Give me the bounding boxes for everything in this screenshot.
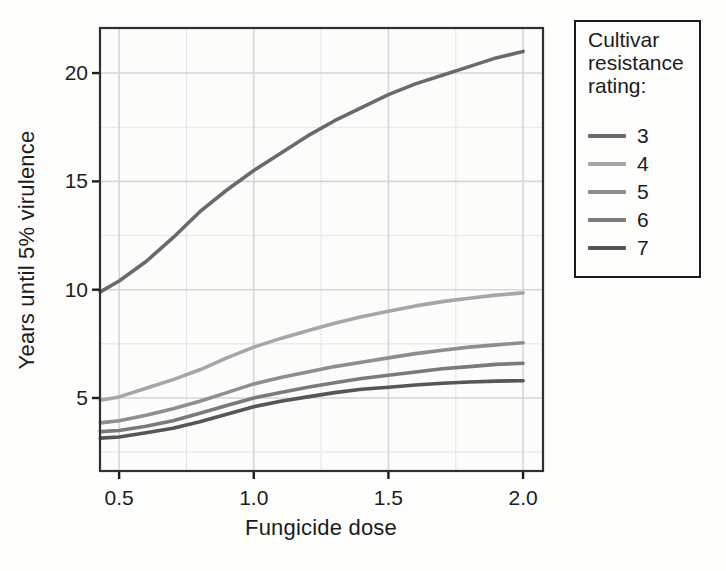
- legend-box: Cultivarresistancerating: 34567: [574, 20, 701, 278]
- legend-line-swatch-7: [588, 246, 626, 250]
- legend-line-swatch-4: [588, 162, 626, 166]
- legend-line-swatch-3: [588, 134, 626, 138]
- x-tick-label-2.0: 2.0: [508, 486, 537, 510]
- figure: Years until 5% virulence Fungicide dose …: [0, 0, 726, 571]
- x-tick-label-1.0: 1.0: [239, 486, 268, 510]
- legend-item-4: 4: [588, 150, 691, 177]
- legend-item-6: 6: [588, 206, 691, 233]
- legend-line-swatch-6: [588, 218, 626, 222]
- y-tick-label-10: 10: [20, 277, 88, 301]
- legend-label-7: 7: [637, 236, 649, 260]
- x-tick-label-1.5: 1.5: [374, 486, 403, 510]
- legend-title: Cultivarresistancerating:: [588, 28, 691, 97]
- y-axis-title: Years until 5% virulence: [14, 131, 40, 370]
- legend-title-line-2: resistance: [588, 51, 691, 74]
- legend-item-3: 3: [588, 122, 691, 149]
- legend-title-line-3: rating:: [588, 74, 691, 97]
- x-axis-title: Fungicide dose: [245, 515, 397, 541]
- legend-label-6: 6: [637, 208, 649, 232]
- x-tick-label-0.5: 0.5: [105, 486, 134, 510]
- y-tick-label-15: 15: [20, 169, 88, 193]
- legend-line-swatch-5: [588, 190, 626, 194]
- y-tick-label-20: 20: [20, 61, 88, 85]
- legend-title-line-1: Cultivar: [588, 28, 691, 51]
- legend-label-4: 4: [637, 152, 649, 176]
- legend-item-5: 5: [588, 178, 691, 205]
- legend-label-3: 3: [637, 124, 649, 148]
- legend-item-7: 7: [588, 234, 691, 261]
- legend-label-5: 5: [637, 180, 649, 204]
- legend-items: 34567: [588, 122, 691, 261]
- y-tick-label-5: 5: [20, 386, 88, 410]
